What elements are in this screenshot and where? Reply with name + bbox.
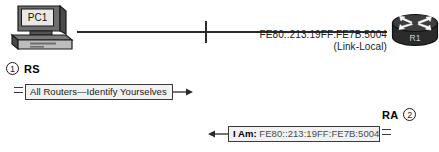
packet-rs: All Routers—Identify Yourselves — [14, 84, 193, 100]
packet-rs-tail-icon — [14, 87, 23, 97]
node-r1-label: R1 — [410, 33, 421, 43]
arrow-left-icon — [208, 129, 228, 139]
packet-ra: I Am: FE80::213:19FF:FE7B:5004 — [208, 126, 391, 142]
step-2-label: RA — [382, 109, 398, 121]
node-r1[interactable]: R1 — [391, 12, 439, 50]
step-1-label: RS — [24, 63, 40, 75]
step-1-number: 1 — [6, 62, 19, 75]
packet-ra-tail-icon — [382, 129, 391, 139]
network-diagram: PC1 FE80::213:19FF:FE7B:5004 (Link-Local… — [0, 0, 439, 152]
desktop-computer-icon: PC1 — [8, 4, 80, 52]
node-pc1[interactable]: PC1 — [8, 4, 80, 52]
link-address-value: FE80::213:19FF:FE7B:5004 — [260, 29, 387, 40]
step-2-header: RA 2 — [382, 108, 416, 121]
router-icon: R1 — [391, 12, 439, 50]
packet-ra-address: FE80::213:19FF:FE7B:5004 — [259, 128, 379, 139]
node-pc1-label: PC1 — [28, 12, 48, 23]
packet-ra-message: I Am: FE80::213:19FF:FE7B:5004 — [228, 126, 380, 142]
link-address-type: (Link-Local) — [232, 41, 387, 53]
step-2-number: 2 — [403, 108, 416, 121]
arrow-right-icon — [173, 87, 193, 97]
step-1-header: 1 RS — [6, 62, 40, 75]
link-address-label: FE80::213:19FF:FE7B:5004 (Link-Local) — [232, 29, 387, 53]
packet-rs-message: All Routers—Identify Yourselves — [25, 84, 173, 100]
packet-ra-prefix: I Am: — [233, 128, 257, 139]
network-link-tick — [205, 21, 207, 43]
